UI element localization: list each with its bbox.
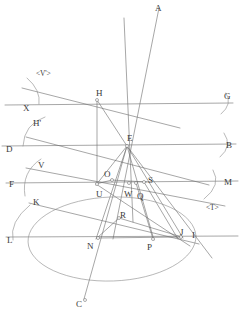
label-X: X — [23, 104, 30, 113]
line-EJ — [127, 146, 183, 238]
arc-L — [12, 205, 30, 240]
lines-group — [2, 8, 238, 299]
line-A — [113, 8, 159, 239]
label-U: U — [96, 190, 103, 199]
label-A: A — [155, 4, 162, 13]
label-T: <T> — [206, 204, 218, 212]
point-S — [143, 181, 146, 184]
label-P: P — [147, 243, 152, 252]
label-G: G — [224, 92, 231, 101]
point-C — [84, 299, 87, 302]
label-B: B — [226, 141, 232, 150]
label-K: K — [33, 198, 40, 207]
line-FM — [6, 181, 238, 183]
label-F: F — [9, 180, 14, 189]
ellipse-base — [27, 194, 198, 284]
line-DB — [2, 144, 236, 146]
point-W — [128, 182, 131, 185]
line-HE — [97, 100, 127, 146]
point-E — [126, 145, 129, 148]
point-U — [96, 183, 99, 186]
line-V — [26, 168, 225, 206]
point-P — [152, 238, 155, 241]
label-S: S — [148, 176, 153, 185]
label-L: L — [7, 236, 13, 245]
label-C: C — [76, 300, 82, 309]
label-O: O — [104, 170, 111, 179]
geometry-figure: A<V'>HGXH'EDBVFOSMUWQKR<T>JILNPC — [0, 0, 245, 321]
label-W: W — [124, 190, 133, 199]
label-J: J — [180, 228, 184, 237]
label-E: E — [127, 134, 133, 143]
label-H: H — [96, 89, 103, 98]
label-D: D — [6, 145, 13, 154]
label-Q: Q — [137, 192, 144, 201]
arc-M — [204, 170, 216, 199]
line-ES — [127, 146, 212, 258]
curves-group — [12, 78, 228, 284]
label-I: I — [192, 231, 195, 240]
line-LI — [6, 236, 238, 237]
line-NJ — [97, 237, 182, 238]
geometry-canvas — [0, 0, 245, 321]
point-Q — [135, 182, 138, 185]
label-N: N — [87, 242, 94, 251]
label-Hp: H' — [33, 119, 41, 128]
line-NR — [97, 218, 119, 238]
label-M: M — [224, 178, 232, 187]
point-N — [97, 237, 100, 240]
label-V: V — [38, 161, 45, 170]
label-Vp: <V'> — [36, 70, 50, 78]
label-R: R — [120, 211, 126, 220]
point-H — [96, 99, 99, 102]
